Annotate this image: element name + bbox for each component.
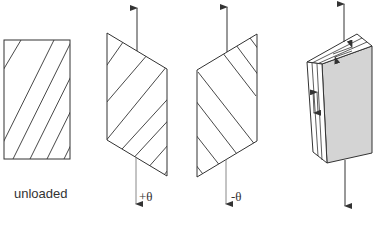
hatch-line	[47, 40, 106, 159]
hatch-line	[13, 40, 72, 159]
front-face	[322, 46, 372, 163]
hatch-line	[30, 40, 89, 159]
hatch-lines	[192, 38, 262, 178]
hatch-line	[0, 40, 54, 159]
hatch-lines	[0, 40, 123, 159]
positive-shear-specimen: +θ	[100, 8, 176, 204]
specimen-outline	[4, 40, 70, 159]
specimen-outline	[197, 34, 257, 177]
unloaded-specimen: unloaded	[0, 40, 123, 201]
hatch-line	[64, 40, 123, 159]
positive-theta-label: +θ	[139, 189, 153, 204]
negative-shear-specimen: -θ	[192, 7, 262, 204]
hatch-lines	[100, 25, 176, 180]
laminate-block	[307, 4, 372, 206]
unloaded-label: unloaded	[14, 186, 68, 201]
negative-theta-label: -θ	[231, 189, 242, 204]
shear-coupling-diagram: unloaded +θ -θ	[0, 0, 379, 227]
